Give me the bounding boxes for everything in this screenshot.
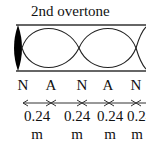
node-label-2: N [75,77,89,93]
segment-2-unit: m [60,126,94,142]
distance-arrows [23,100,146,106]
antinode-label-2: A [101,77,115,93]
node-label-3: N [129,77,143,93]
segment-1-value: 0.24 [20,108,54,124]
wave-loop-1 [22,29,79,68]
segment-2-value: 0.24 [60,108,94,124]
antinode-label-1: A [44,77,58,93]
node-label-1: N [16,77,30,93]
wave-loop-2 [79,29,136,68]
segment-4-unit: m [120,126,146,142]
wave-loop-3-partial [136,27,146,69]
segment-4-value: 0.24 [123,108,146,124]
segment-3-value: 0.24 [93,108,127,124]
segment-1-unit: m [20,126,54,142]
closed-end-cap [14,25,22,71]
